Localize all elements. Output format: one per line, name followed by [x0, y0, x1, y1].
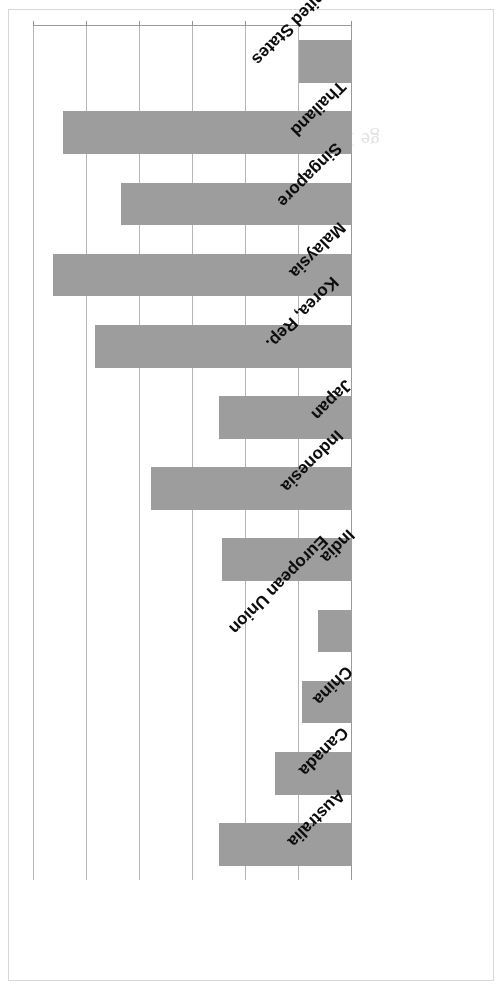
bar-united-states — [299, 40, 352, 83]
value-tick-label: 0.40 — [224, 0, 246, 17]
bar-row — [34, 325, 352, 368]
value-tick-label: 0.60 — [171, 0, 193, 17]
value-tick-label: 0.80 — [118, 0, 140, 17]
scanned-chart-page: ge 1 of 14 72 2 0.000.200.400.600.801.00… — [0, 0, 500, 989]
bar-australia — [220, 823, 353, 866]
bar-indonesia — [151, 467, 352, 510]
value-tick-label: 0.00 — [330, 0, 352, 17]
bar-row — [34, 396, 352, 439]
bar-korea-rep — [95, 325, 352, 368]
bar-european-union — [318, 610, 352, 653]
value-tick-label: 1.00 — [65, 0, 87, 17]
bar-singapore — [121, 183, 352, 226]
bar-row — [34, 681, 352, 724]
bar-row — [34, 40, 352, 83]
bar-row — [34, 610, 352, 653]
value-tick-label: 1.20 — [12, 0, 34, 17]
